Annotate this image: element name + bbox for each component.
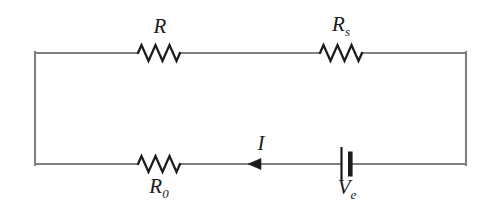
battery-short-plate: [348, 152, 353, 177]
current-I-label: I: [258, 133, 265, 154]
resistor-Rs-label-subscript: s: [345, 24, 350, 39]
resistor-R-label: R: [154, 16, 167, 37]
resistor-Rs-label-base: R: [332, 12, 345, 36]
resistor-R0-label-base: R: [149, 174, 162, 198]
battery-Ve-label-subscript: e: [351, 187, 357, 202]
resistor-R-label-base: R: [154, 14, 167, 38]
battery-Ve-label-base: V: [338, 175, 351, 199]
battery-Ve-label: Ve: [338, 177, 357, 198]
current-I-label-base: I: [258, 131, 265, 155]
circuit-diagram-figure: R Rs R0 I Ve: [0, 0, 493, 212]
resistor-R0-label: R0: [149, 176, 168, 197]
resistor-R-symbol: [138, 45, 180, 61]
circuit-wires: [35, 52, 466, 165]
resistor-Rs-label: Rs: [332, 14, 350, 35]
circuit-schematic-canvas: [0, 0, 493, 212]
resistor-Rs-symbol: [320, 45, 362, 61]
resistor-R0-label-subscript: 0: [162, 186, 169, 201]
current-direction-arrow: [248, 159, 261, 170]
resistor-R0-symbol: [138, 156, 180, 172]
